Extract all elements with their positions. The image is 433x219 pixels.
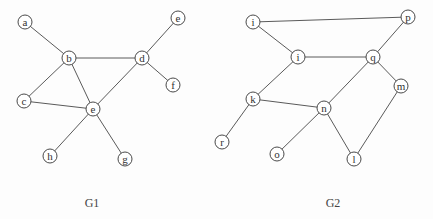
edge-g2-i-i — [253, 22, 298, 57]
node-label: a — [23, 16, 28, 28]
edge-g2-i-p — [253, 17, 408, 22]
edge-g2-k-r — [222, 99, 253, 142]
node-g2-r: r — [215, 135, 229, 149]
node-label: i — [251, 16, 254, 28]
node-g2-o: o — [270, 147, 284, 161]
node-g2-i: i — [291, 50, 305, 64]
node-label: i — [296, 51, 299, 63]
node-g1-e: e — [86, 102, 100, 116]
node-g2-k: k — [246, 92, 260, 106]
edge-g2-n-o — [277, 108, 324, 154]
node-label: k — [250, 93, 256, 105]
edge-g1-b-e — [69, 58, 93, 109]
edge-g1-c-e — [24, 101, 93, 109]
node-g1-e-top: e — [171, 11, 185, 25]
node-label: e — [176, 12, 181, 24]
node-label: c — [22, 95, 27, 107]
node-label: n — [321, 102, 327, 114]
node-g1-c: c — [17, 94, 31, 108]
graph-caption-g1: G1 — [85, 196, 100, 210]
node-g2-l: l — [347, 152, 361, 166]
edge-g2-i-k — [253, 57, 298, 99]
node-label: b — [66, 52, 72, 64]
edge-g2-p-q — [373, 17, 408, 57]
node-g1-f: f — [166, 78, 180, 92]
edge-g2-q-n — [324, 57, 373, 108]
node-label: l — [352, 153, 355, 165]
node-label: m — [397, 80, 406, 92]
node-label: r — [220, 136, 224, 148]
diagram-canvas: abdefcehgipiqmknrol G1G2 — [0, 0, 433, 219]
node-label: d — [139, 52, 145, 64]
node-label: p — [405, 11, 411, 23]
node-label: f — [171, 79, 175, 91]
node-g2-n: n — [317, 101, 331, 115]
edge-g2-n-l — [324, 108, 354, 159]
edge-g1-d-e — [93, 58, 142, 109]
edge-g1-a-b — [25, 22, 69, 58]
node-label: q — [370, 51, 376, 63]
node-g1-h: h — [43, 149, 57, 163]
node-label: o — [274, 148, 280, 160]
node-g1-b: b — [62, 51, 76, 65]
node-label: h — [47, 150, 53, 162]
node-g1-g: g — [118, 152, 132, 166]
node-g1-d: d — [135, 51, 149, 65]
node-label: e — [91, 103, 96, 115]
edge-g1-d-e — [142, 18, 178, 58]
edge-g1-e-g — [93, 109, 125, 159]
edge-g1-e-h — [50, 109, 93, 156]
node-label: g — [122, 153, 128, 165]
graph-caption-g2: G2 — [326, 196, 341, 210]
edge-g1-b-c — [24, 58, 69, 101]
node-g2-p: p — [401, 10, 415, 24]
node-g1-a: a — [18, 15, 32, 29]
nodes-layer: abdefcehgipiqmknrol — [17, 10, 415, 166]
node-g2-m: m — [394, 79, 408, 93]
node-g2-q: q — [366, 50, 380, 64]
edge-g2-k-n — [253, 99, 324, 108]
edge-g2-m-l — [354, 86, 401, 159]
graph-labels-layer: G1G2 — [85, 196, 341, 210]
graph-diagram: abdefcehgipiqmknrol G1G2 — [0, 0, 433, 219]
node-g2-i-top: i — [246, 15, 260, 29]
